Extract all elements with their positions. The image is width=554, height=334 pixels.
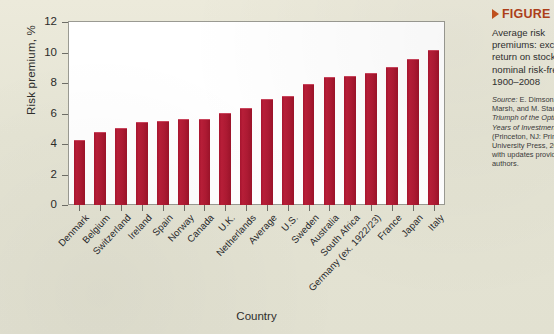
bar — [94, 132, 106, 205]
x-tick-mark — [163, 205, 164, 211]
bar — [74, 140, 86, 205]
figure-source-line: Source: E. Dimson, P. — [492, 95, 554, 104]
figure-source-line: authors. — [492, 159, 554, 168]
bar-slot — [386, 22, 398, 205]
y-tick-label: 6 — [17, 107, 57, 119]
bar-slot — [136, 22, 148, 205]
figure-description-line: return on stocks over — [492, 51, 554, 63]
bar — [136, 122, 148, 205]
bar — [261, 99, 273, 205]
x-tick-mark — [204, 205, 205, 211]
figure-description: Average riskpremiums: excessreturn on st… — [492, 27, 554, 88]
y-tick-label: 10 — [17, 46, 57, 58]
x-tick-mark — [184, 205, 185, 211]
x-tick-label: Japan — [399, 212, 425, 239]
bar — [407, 59, 419, 205]
figure-source-line: University Press, 2002), — [492, 141, 554, 150]
x-tick-mark — [434, 205, 435, 211]
x-tick-mark — [288, 205, 289, 211]
risk-premium-bar-chart: Risk premium, % 024681012 DenmarkBelgium… — [0, 0, 486, 334]
figure-source: Source: E. Dimson, P.Marsh, and M. Staun… — [492, 95, 554, 169]
x-tick-mark — [142, 205, 143, 211]
bar-slot — [219, 22, 231, 205]
bar — [365, 73, 377, 205]
y-tick-label: 0 — [17, 198, 57, 210]
x-tick-mark — [392, 205, 393, 211]
x-tick-mark — [225, 205, 226, 211]
bar-slot — [199, 22, 211, 205]
figure-source-line: with updates provided by the — [492, 150, 554, 159]
bar-slot — [178, 22, 190, 205]
bar-slot — [303, 22, 315, 205]
bar — [157, 121, 169, 205]
figure-source-line: Marsh, and M. Staunton, — [492, 104, 554, 113]
bar-slot — [365, 22, 377, 205]
figure-label: FIGURE — [502, 7, 550, 21]
bar-slot — [94, 22, 106, 205]
bar — [386, 67, 398, 205]
x-tick-mark — [309, 205, 310, 211]
x-axis-ticks — [69, 205, 444, 212]
bar — [199, 119, 211, 205]
x-axis-title: Country — [68, 310, 445, 322]
bar-slot — [282, 22, 294, 205]
y-tick-label: 4 — [17, 137, 57, 149]
x-tick-mark — [371, 205, 372, 211]
x-tick-mark — [100, 205, 101, 211]
bar-slot — [240, 22, 252, 205]
figure-caption: FIGURE Average riskpremiums: excessretur… — [487, 0, 554, 334]
triangle-bullet-icon — [492, 9, 499, 19]
y-tick-label: 12 — [17, 15, 57, 27]
bar — [344, 76, 356, 205]
y-tick-label: 8 — [17, 76, 57, 88]
bar — [282, 96, 294, 205]
figure-description-line: 1900–2008 — [492, 76, 554, 88]
x-tick-mark — [267, 205, 268, 211]
figure-heading: FIGURE — [492, 7, 554, 21]
figure-description-line: nominal risk-free rate, — [492, 64, 554, 76]
y-axis-ticks: 024681012 — [0, 0, 68, 206]
bar-slot — [344, 22, 356, 205]
y-tick-mark — [62, 205, 68, 206]
y-tick-label: 2 — [17, 168, 57, 180]
figure-source-line: Years of Investment Returns — [492, 123, 554, 132]
bar-slot — [324, 22, 336, 205]
bar — [428, 50, 440, 205]
bar — [219, 113, 231, 206]
bar-slot — [261, 22, 273, 205]
figure-page: Risk premium, % 024681012 DenmarkBelgium… — [0, 0, 554, 334]
bar — [303, 84, 315, 205]
bar — [324, 77, 336, 205]
x-tick-mark — [350, 205, 351, 211]
x-tick-mark — [413, 205, 414, 211]
bar — [178, 119, 190, 205]
bar — [115, 128, 127, 205]
figure-source-line: (Princeton, NJ: Princeton — [492, 132, 554, 141]
x-tick-mark — [246, 205, 247, 211]
bar-slot — [115, 22, 127, 205]
bar — [240, 108, 252, 205]
x-tick-mark — [79, 205, 80, 211]
figure-description-line: premiums: excess — [492, 39, 554, 51]
figure-description-line: Average risk — [492, 27, 554, 39]
bar-slot — [157, 22, 169, 205]
x-tick-mark — [329, 205, 330, 211]
figure-source-line: Triumph of the Optimists: 101 — [492, 113, 554, 122]
x-axis-labels: DenmarkBelgiumSwitzerlandIrelandSpainNor… — [69, 212, 444, 307]
x-tick-mark — [121, 205, 122, 211]
bars-container — [69, 22, 444, 205]
bar-slot — [407, 22, 419, 205]
bar-slot — [74, 22, 86, 205]
x-tick-label: Italy — [425, 212, 445, 233]
bar-slot — [428, 22, 440, 205]
